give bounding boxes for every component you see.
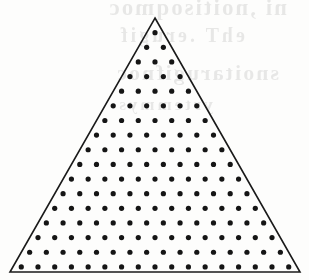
- lattice-dot: [177, 103, 182, 108]
- lattice-dot: [86, 176, 91, 181]
- lattice-dot: [69, 264, 74, 269]
- lattice-dot: [169, 264, 174, 269]
- lattice-dot: [127, 250, 132, 255]
- lattice-dot: [152, 264, 157, 269]
- lattice-dot: [203, 176, 208, 181]
- lattice-dot: [19, 264, 24, 269]
- lattice-dot: [127, 103, 132, 108]
- lattice-dot: [86, 264, 91, 269]
- lattice-dot: [219, 264, 224, 269]
- lattice-dot: [144, 45, 149, 50]
- lattice-dot: [111, 162, 116, 167]
- lattice-dot: [219, 147, 224, 152]
- lattice-dot: [136, 59, 141, 64]
- lattice-dot: [35, 235, 40, 240]
- lattice-dot: [161, 191, 166, 196]
- lattice-dot: [194, 162, 199, 167]
- lattice-dot: [186, 118, 191, 123]
- lattice-dot: [203, 264, 208, 269]
- lattice-dot: [161, 103, 166, 108]
- lattice-dot: [127, 74, 132, 79]
- lattice-dot: [228, 162, 233, 167]
- lattice-dot: [52, 264, 57, 269]
- lattice-dot: [228, 191, 233, 196]
- lattice-dot: [94, 220, 99, 225]
- lattice-dot: [111, 103, 116, 108]
- lattice-dot: [86, 147, 91, 152]
- lattice-dot: [144, 133, 149, 138]
- lattice-dot: [152, 176, 157, 181]
- lattice-dot: [194, 220, 199, 225]
- lattice-dot: [177, 250, 182, 255]
- lattice-dot: [144, 220, 149, 225]
- lattice-dot: [261, 220, 266, 225]
- lattice-dot: [211, 133, 216, 138]
- lattice-dot: [152, 235, 157, 240]
- lattice-dot: [77, 250, 82, 255]
- lattice-dot: [169, 59, 174, 64]
- lattice-dot: [228, 250, 233, 255]
- lattice-dot: [203, 147, 208, 152]
- lattice-dot: [186, 235, 191, 240]
- lattice-dot: [119, 89, 124, 94]
- lattice-dot: [169, 147, 174, 152]
- lattice-dot: [269, 235, 274, 240]
- lattice-dot: [152, 89, 157, 94]
- lattice-dot: [236, 206, 241, 211]
- lattice-dot: [52, 235, 57, 240]
- lattice-dot: [194, 103, 199, 108]
- lattice-dot: [177, 162, 182, 167]
- lattice-dot: [186, 206, 191, 211]
- lattice-dot: [211, 250, 216, 255]
- lattice-dot: [119, 264, 124, 269]
- lattice-dot: [136, 206, 141, 211]
- lattice-dot: [169, 235, 174, 240]
- lattice-dot: [228, 220, 233, 225]
- lattice-dot: [211, 162, 216, 167]
- lattice-dot: [102, 235, 107, 240]
- lattice-dot: [152, 147, 157, 152]
- triangle-outline: [10, 18, 300, 272]
- lattice-dot: [194, 191, 199, 196]
- lattice-dot: [219, 176, 224, 181]
- lattice-dot: [77, 162, 82, 167]
- lattice-dot: [77, 191, 82, 196]
- lattice-dot: [144, 162, 149, 167]
- lattice-dot: [177, 220, 182, 225]
- lattice-dot: [211, 220, 216, 225]
- lattice-dot: [127, 191, 132, 196]
- lattice-dot: [269, 264, 274, 269]
- lattice-dot: [186, 176, 191, 181]
- lattice-dot: [169, 206, 174, 211]
- triangular-lattice-figure: ni ,noitisoqmoc ehT .erugif snoitarugifn…: [0, 0, 309, 280]
- lattice-dot: [86, 206, 91, 211]
- lattice-dot: [144, 191, 149, 196]
- lattice-dot: [144, 74, 149, 79]
- lattice-dot: [161, 220, 166, 225]
- lattice-dot: [219, 235, 224, 240]
- lattice-dot: [102, 176, 107, 181]
- lattice-dot: [119, 206, 124, 211]
- lattice-dot: [77, 220, 82, 225]
- lattice-dot: [119, 147, 124, 152]
- lattice-dot: [253, 206, 258, 211]
- lattice-dot: [144, 250, 149, 255]
- lattice-dot: [69, 206, 74, 211]
- lattice-dot: [111, 133, 116, 138]
- lattice-dot: [152, 30, 157, 35]
- lattice-dot: [69, 176, 74, 181]
- lattice-dot: [219, 206, 224, 211]
- lattice-dot: [94, 191, 99, 196]
- lattice-dot: [119, 118, 124, 123]
- lattice-dot: [169, 89, 174, 94]
- lattice-dot: [194, 133, 199, 138]
- lattice-dot: [236, 235, 241, 240]
- lattice-dot: [136, 89, 141, 94]
- lattice-dot: [60, 191, 65, 196]
- lattice-dot: [102, 264, 107, 269]
- lattice-dot: [177, 191, 182, 196]
- lattice-dot: [286, 264, 291, 269]
- lattice-dot: [161, 133, 166, 138]
- lattice-dot: [127, 162, 132, 167]
- lattice-dot: [278, 250, 283, 255]
